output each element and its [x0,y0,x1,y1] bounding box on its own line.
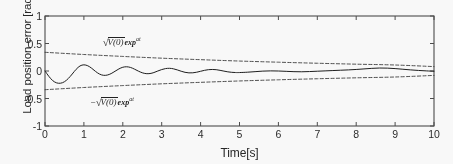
series-path-2 [45,75,434,89]
x-tick-label: 4 [191,129,211,140]
x-tick-label: 7 [307,129,327,140]
x-tick-label: 1 [74,129,94,140]
x-tick-label: 8 [346,129,366,140]
x-tick-label: 2 [113,129,133,140]
chart-figure: Load position error [rad] 1 0.5 0 -0.5 -… [0,0,453,164]
axes-frame [45,16,434,126]
exp-text: exp [125,38,137,47]
x-tick-label: 0 [35,129,55,140]
x-tick-label: 9 [385,129,405,140]
x-tick-label: 10 [424,129,444,140]
radicand: V(0) [108,37,125,47]
axis-ticks [45,16,434,126]
radicand: V(0) [101,97,118,107]
upper-envelope-annotation: √V(0)expat [103,36,141,47]
x-tick-label: 3 [152,129,172,140]
series-path-1 [45,52,434,66]
exp-superscript: at [136,36,141,42]
x-tick-label: 5 [230,129,250,140]
lower-envelope-annotation: −√V(0)expat [90,96,134,107]
x-axis-label: Time[s] [45,146,434,160]
x-tick-label: 6 [268,129,288,140]
exp-superscript: at [129,96,134,102]
y-tick-label: 0 [16,66,42,77]
y-tick-label: -0.5 [16,94,42,105]
data-series-layer [45,52,434,89]
y-tick-label: 1 [16,11,42,22]
y-tick-label: 0.5 [16,39,42,50]
exp-text: exp [118,98,130,107]
